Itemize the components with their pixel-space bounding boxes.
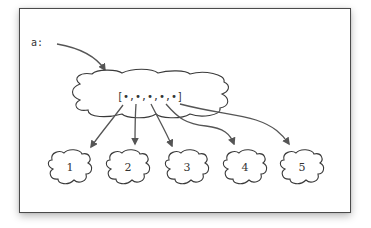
- element-label-4: 4: [242, 161, 249, 174]
- element-cloud-2: 2: [106, 150, 149, 184]
- element-label-5: 5: [299, 161, 306, 174]
- element-label-3: 3: [184, 161, 191, 174]
- element-cloud-1: 1: [48, 150, 91, 184]
- diagram-svg: a: [•,•,•,•,•] 1 2 3 4: [0, 0, 371, 228]
- variable-label: a:: [31, 37, 43, 48]
- reference-arrow: [57, 44, 105, 70]
- element-cloud-3: 3: [165, 150, 208, 184]
- element-label-2: 2: [125, 161, 132, 174]
- array-label: [•,•,•,•,•]: [117, 91, 183, 102]
- edge-arrow-2: [135, 104, 136, 144]
- element-label-1: 1: [67, 161, 74, 174]
- element-cloud-5: 5: [280, 150, 323, 184]
- diagram-canvas: a: [•,•,•,•,•] 1 2 3 4: [0, 0, 371, 228]
- element-cloud-4: 4: [223, 150, 266, 184]
